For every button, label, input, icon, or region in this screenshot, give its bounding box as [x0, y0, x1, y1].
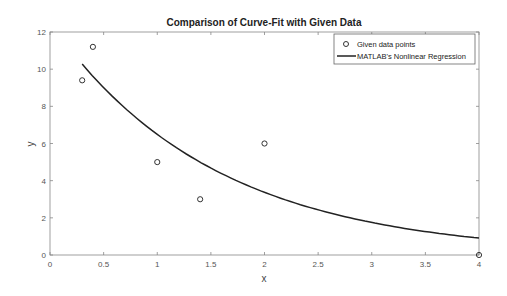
chart: Comparison of Curve-Fit with Given Data …	[0, 0, 507, 296]
x-tick-label: 2	[262, 260, 267, 269]
y-tick-label: 10	[37, 65, 46, 74]
y-tick-label: 0	[42, 251, 47, 260]
x-tick-label: 0.5	[98, 260, 110, 269]
chart-title: Comparison of Curve-Fit with Given Data	[166, 17, 361, 28]
x-tick-label: 3.5	[420, 260, 432, 269]
legend-item-data: Given data points	[357, 40, 416, 49]
legend: Given data points MATLAB's Nonlinear Reg…	[334, 34, 475, 64]
y-tick-label: 8	[42, 102, 47, 111]
x-tick-label: 1	[155, 260, 160, 269]
y-tick-label: 6	[42, 140, 47, 149]
x-tick-label: 0	[48, 260, 53, 269]
y-tick-label: 2	[42, 214, 47, 223]
x-tick-label: 3	[370, 260, 375, 269]
y-axis-label: y	[25, 142, 36, 147]
x-tick-label: 2.5	[313, 260, 325, 269]
legend-item-fit: MATLAB's Nonlinear Regression	[357, 52, 466, 61]
x-tick-label: 1.5	[205, 260, 217, 269]
axes-box	[50, 32, 479, 255]
y-tick-label: 12	[37, 28, 46, 37]
x-tick-label: 4	[477, 260, 482, 269]
x-axis-label: x	[262, 273, 267, 284]
y-tick-label: 4	[42, 177, 47, 186]
